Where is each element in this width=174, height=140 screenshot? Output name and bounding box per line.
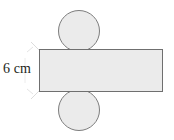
bottom-circle [59, 90, 100, 131]
lateral-rectangle [40, 50, 163, 92]
dimension-label-6-cm: 6 cm [3, 59, 39, 78]
top-circle [59, 11, 100, 52]
cylinder-net-figure: 6 cm [0, 0, 174, 140]
